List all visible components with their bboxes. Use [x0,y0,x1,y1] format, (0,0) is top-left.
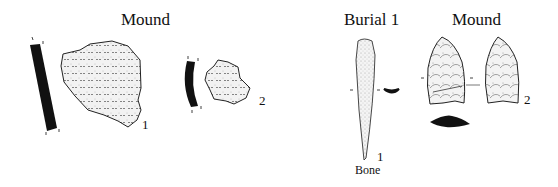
artifact-number: 2 [524,92,531,108]
heading-mound-right: Mound [452,10,501,30]
bone-awl-section [384,89,399,93]
projectile-point-section [430,116,470,128]
sherd-2-profile [185,56,201,113]
heading-mound-left: Mound [121,10,170,30]
material-label: Bone [355,163,380,178]
sherd-1-face [61,41,141,127]
heading-burial-1: Burial 1 [344,10,399,30]
projectile-point-obverse [427,37,464,104]
projectile-point-reverse [485,37,518,103]
artifact-number: 1 [142,117,149,133]
artifact-plate: Mound 1 2 Burial 1 1 Bone Mound 2 [0,0,558,187]
bone-awl [356,39,375,160]
sherd-1-profile [30,37,59,135]
artifact-number: 2 [259,93,266,109]
sherd-2-face [205,60,250,104]
